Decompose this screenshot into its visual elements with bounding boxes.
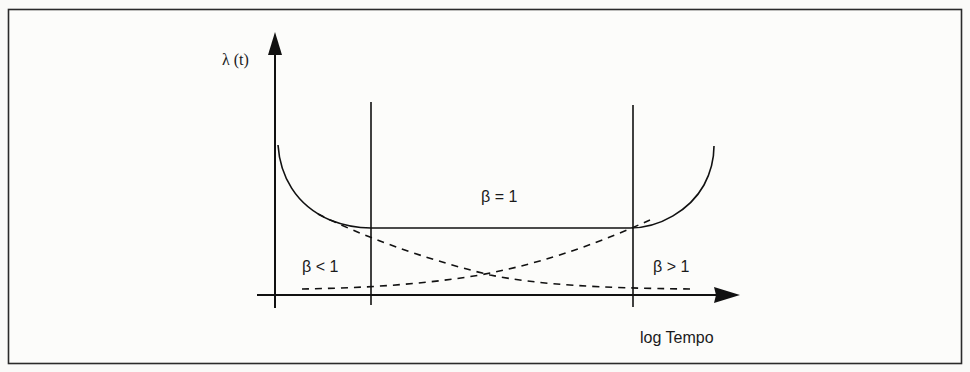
bathtub-curve-figure: λ (t) β = 1 β < 1 β > 1 log Tempo [0,0,970,372]
beta-less-1-label: β < 1 [302,258,338,275]
figure-frame [9,10,962,364]
y-axis-label: λ (t) [222,51,249,69]
beta-equal-1-label: β = 1 [481,188,517,205]
beta-greater-1-label: β > 1 [653,258,689,275]
x-axis-label: log Tempo [640,329,714,346]
